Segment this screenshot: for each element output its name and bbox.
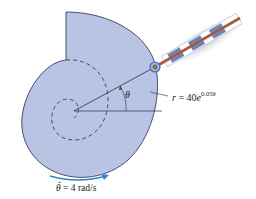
spiral-cam — [22, 12, 158, 177]
angular-velocity-label: θ = 4 rad/s — [56, 183, 96, 193]
angular-velocity-value: = 4 rad/s — [61, 183, 97, 193]
theta-dot-symbol: θ — [56, 183, 61, 193]
roller-pin — [153, 65, 157, 69]
r-equation-label: r = 40e0.05θ — [172, 90, 216, 103]
follower-rod-highlight — [158, 18, 240, 65]
theta-label: θ — [125, 89, 130, 100]
